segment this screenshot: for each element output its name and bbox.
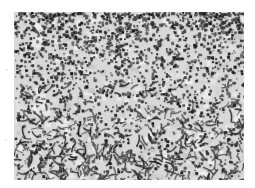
edge-speck — [6, 69, 8, 71]
micrograph-image — [14, 12, 244, 180]
micrograph-texture — [14, 12, 244, 180]
edge-speck — [5, 139, 7, 141]
